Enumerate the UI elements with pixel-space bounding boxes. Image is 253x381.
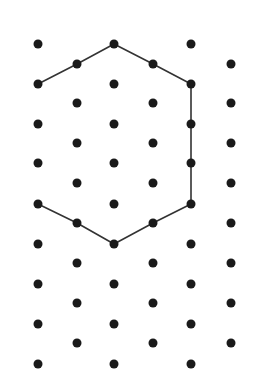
grid-dot [34,240,43,249]
dot-grid [34,40,236,369]
grid-dot [187,200,196,209]
grid-dot [110,320,119,329]
grid-dot [73,99,82,108]
grid-dot [110,40,119,49]
grid-dot [34,120,43,129]
grid-dot [187,320,196,329]
grid-dot [187,40,196,49]
grid-dot [110,360,119,369]
grid-dot [227,139,236,148]
dot-grid-diagram [0,0,253,381]
grid-dot [73,179,82,188]
grid-dot [227,219,236,228]
grid-dot [149,299,158,308]
grid-dot [110,159,119,168]
grid-dot [73,139,82,148]
grid-dot [227,99,236,108]
grid-dot [149,339,158,348]
grid-dot [73,219,82,228]
grid-dot [34,80,43,89]
grid-dot [187,159,196,168]
grid-dot [110,120,119,129]
diagram-svg [0,0,253,381]
grid-dot [34,280,43,289]
grid-dot [187,360,196,369]
grid-dot [110,80,119,89]
grid-dot [73,339,82,348]
grid-dot [73,60,82,69]
grid-dot [34,200,43,209]
grid-dot [34,360,43,369]
grid-dot [187,120,196,129]
grid-dot [110,280,119,289]
grid-dot [149,259,158,268]
grid-dot [227,299,236,308]
grid-dot [149,60,158,69]
grid-dot [187,240,196,249]
grid-dot [73,299,82,308]
grid-dot [227,259,236,268]
grid-dot [227,60,236,69]
grid-dot [34,40,43,49]
grid-dot [187,80,196,89]
grid-dot [149,99,158,108]
grid-dot [149,139,158,148]
grid-dot [227,179,236,188]
grid-dot [187,280,196,289]
grid-dot [110,200,119,209]
hexagon-outline [38,44,191,244]
hexagon-polyline [38,44,191,244]
grid-dot [149,179,158,188]
grid-dot [149,219,158,228]
grid-dot [227,339,236,348]
grid-dot [34,159,43,168]
grid-dot [34,320,43,329]
grid-dot [110,240,119,249]
grid-dot [73,259,82,268]
